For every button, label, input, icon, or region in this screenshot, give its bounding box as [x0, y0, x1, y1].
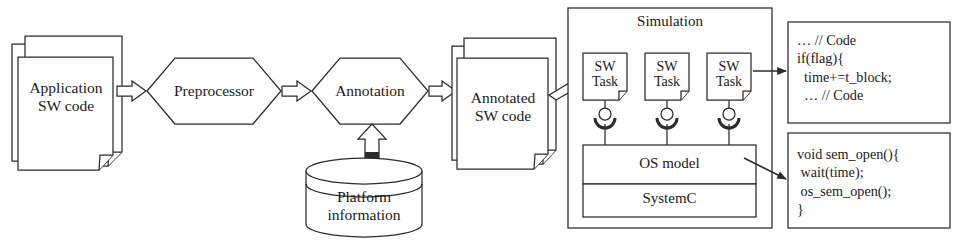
arrow-platform-to-annotation [358, 124, 386, 160]
task-code-text: … // Code if(flag){ time+=t_block; … // … [797, 31, 947, 105]
arrow-preprocessor-to-annotation [282, 81, 311, 101]
application-sw-code-shape [12, 36, 122, 170]
os-model-box [583, 145, 756, 184]
sw-task-shape-2 [645, 53, 689, 100]
flow-diagram: Application SW code Preprocessor Annotat… [0, 0, 960, 243]
os-code-text: void sem_open(){ wait(time); os_sem_open… [797, 145, 947, 219]
preprocessor-shape [147, 58, 281, 124]
sw-task-shape-3 [707, 53, 751, 100]
annotated-sw-code-shape [452, 38, 556, 169]
systemc-box [583, 184, 756, 217]
platform-information-shape [306, 158, 422, 237]
sw-task-shape-1 [583, 53, 627, 100]
annotation-shape [312, 58, 428, 124]
